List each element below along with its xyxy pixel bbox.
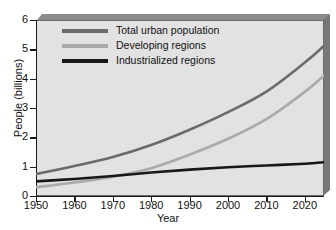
legend-swatch-icon xyxy=(62,44,108,48)
legend-item-label: Total urban population xyxy=(116,25,219,36)
y-tick-label-wrap: 1 xyxy=(0,160,28,172)
plot-bevel-right xyxy=(323,14,330,196)
y-tick-label-wrap: 6 xyxy=(0,13,28,25)
y-tick-label: 6 xyxy=(0,13,28,25)
legend-swatch-icon xyxy=(62,29,108,33)
legend-item-label: Developing regions xyxy=(116,40,206,51)
legend-item-label: Industrialized regions xyxy=(116,55,215,66)
x-tick-label: 1950 xyxy=(24,199,48,211)
x-tick-label: 1990 xyxy=(177,199,201,211)
x-tick-label: 2020 xyxy=(293,199,317,211)
legend-swatch-icon xyxy=(62,59,108,63)
y-tick-label: 1 xyxy=(0,160,28,172)
x-tick-label: 1960 xyxy=(62,199,86,211)
legend-item[interactable]: Industrialized regions xyxy=(62,53,219,68)
chart-container: 0123456 19501960197019801990200020102020… xyxy=(0,0,336,230)
legend-item[interactable]: Developing regions xyxy=(62,38,219,53)
x-tick-label: 1980 xyxy=(139,199,163,211)
x-tick-label: 2010 xyxy=(254,199,278,211)
x-axis-title: Year xyxy=(0,212,336,224)
y-axis-title: People (billions) xyxy=(12,43,24,153)
x-tick-label: 2000 xyxy=(216,199,240,211)
chart-legend: Total urban populationDeveloping regions… xyxy=(62,23,219,68)
x-tick-label: 1970 xyxy=(101,199,125,211)
legend-item[interactable]: Total urban population xyxy=(62,23,219,38)
